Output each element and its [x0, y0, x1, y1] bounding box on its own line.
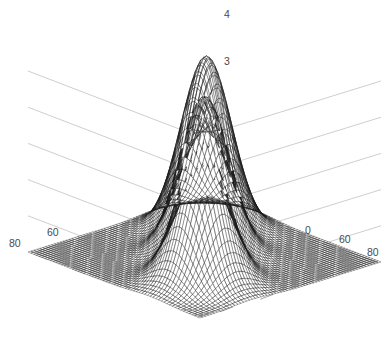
right-axis-tick-60: 60	[339, 234, 351, 245]
right-axis-tick-80: 80	[367, 247, 379, 258]
surface-plot-canvas	[0, 0, 390, 338]
left-axis-tick-80: 80	[9, 238, 21, 249]
surface-plot-figure: 4 3 80 60 0 60 80	[0, 0, 390, 338]
left-axis-tick-60: 60	[47, 227, 59, 238]
z-axis-tick-4: 4	[224, 9, 230, 20]
right-axis-tick-occluded: 0	[305, 225, 311, 236]
z-axis-tick-3: 3	[224, 56, 230, 67]
